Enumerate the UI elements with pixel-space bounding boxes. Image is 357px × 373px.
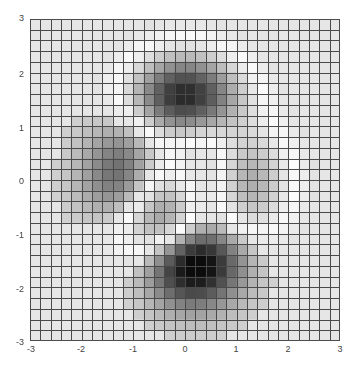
y-tick-label: -2 bbox=[4, 285, 24, 294]
x-tick-label: -3 bbox=[21, 345, 41, 354]
heatmap-canvas bbox=[30, 19, 340, 341]
heatmap-plot-area bbox=[30, 19, 340, 341]
x-tick-label: 2 bbox=[278, 345, 298, 354]
x-tick-label: 1 bbox=[226, 345, 246, 354]
x-tick-label: -1 bbox=[123, 345, 143, 354]
y-tick-label: 2 bbox=[4, 70, 24, 79]
y-tick-label: 1 bbox=[4, 124, 24, 133]
x-tick-label: 0 bbox=[175, 345, 195, 354]
x-tick-label: 3 bbox=[330, 345, 350, 354]
x-tick-label: -2 bbox=[71, 345, 91, 354]
y-tick-label: -1 bbox=[4, 231, 24, 240]
y-tick-label: 0 bbox=[4, 177, 24, 186]
y-tick-label: 3 bbox=[4, 14, 24, 23]
